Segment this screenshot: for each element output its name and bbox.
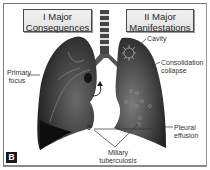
primary-focus-lesion — [84, 73, 92, 83]
label-line: tuberculosis — [97, 157, 139, 165]
major-manifestations-title: II Major Manifestations — [126, 9, 194, 32]
primary-focus-label: Primary focus — [7, 69, 27, 84]
title-line: II Major — [127, 12, 193, 23]
pleural-effusion-label: Pleural effusion — [174, 124, 198, 139]
label-line: Primary — [7, 69, 27, 77]
panel-label-badge: B — [6, 152, 17, 163]
major-consequences-title: I Major Consequences — [23, 9, 92, 32]
title-line: I Major — [24, 12, 91, 23]
title-line: Manifestations — [127, 23, 193, 34]
title-line: Consequences — [24, 23, 91, 34]
right-lung-icon — [114, 38, 166, 148]
arrow-up-icon — [97, 81, 103, 86]
label-line: Pleural — [174, 124, 198, 132]
miliary-tuberculosis-label: Miliary tuberculosis — [97, 149, 139, 164]
label-line: Consolidation — [161, 59, 203, 67]
label-line: focus — [7, 77, 27, 85]
label-line: Miliary — [97, 149, 139, 157]
marker-number: 5 — [87, 124, 91, 132]
cavity-label: Cavity — [147, 35, 166, 43]
label-line: collapse — [161, 67, 203, 75]
label-line: effusion — [174, 132, 198, 140]
consolidation-collapse-label: Consolidation collapse — [161, 59, 203, 74]
